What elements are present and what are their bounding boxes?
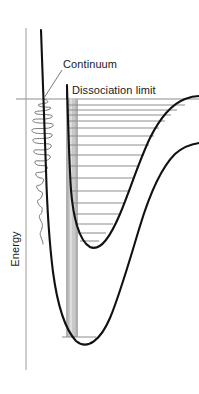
continuum-wavefunction-trace	[32, 99, 53, 244]
continuum-leader-line	[44, 70, 62, 98]
ground-state-potential-curve	[41, 30, 199, 345]
franck-condon-diagram: Continuum Dissociation limit Energy	[0, 0, 199, 394]
excited-state-vibrational-levels	[68, 105, 186, 241]
potential-energy-plot	[0, 0, 199, 394]
